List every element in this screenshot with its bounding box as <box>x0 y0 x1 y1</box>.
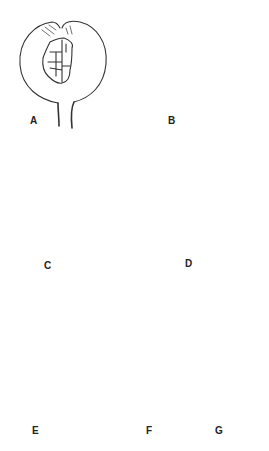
panel-label-a: A <box>30 115 37 126</box>
panel-label-g: G <box>215 425 223 436</box>
panel-label-d: D <box>185 258 192 269</box>
panel-a-drawing <box>20 21 106 128</box>
figure-plate: A B C D E F G <box>0 0 269 451</box>
illustration-svg <box>0 0 269 451</box>
panel-label-f: F <box>146 425 152 436</box>
panel-label-e: E <box>32 425 39 436</box>
panel-label-c: C <box>44 260 51 271</box>
panel-label-b: B <box>168 115 175 126</box>
